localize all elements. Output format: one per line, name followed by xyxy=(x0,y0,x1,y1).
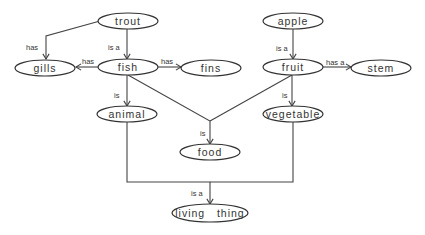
edge-trout-to-fish: is a xyxy=(108,29,130,59)
edge-label: is a xyxy=(191,189,204,198)
edge-label: has xyxy=(82,57,94,66)
edge-label: is xyxy=(200,129,206,138)
node-trout: trout xyxy=(98,13,158,29)
node-label: living thing xyxy=(175,207,244,219)
edge-fish-to-fins: has xyxy=(158,57,181,70)
node-label: trout xyxy=(115,15,141,27)
node-label: apple xyxy=(278,15,309,27)
edge-label: is xyxy=(114,91,120,100)
node-label: food xyxy=(198,146,222,158)
node-food: food xyxy=(180,144,240,160)
node-stem: stem xyxy=(351,60,411,76)
node-fins: fins xyxy=(181,60,241,76)
edge-fish-to-animal: is xyxy=(114,75,130,106)
edge-line xyxy=(46,21,100,59)
node-living-thing: living thing xyxy=(172,204,248,222)
node-vegetable: vegetable xyxy=(263,106,323,122)
node-label: fruit xyxy=(282,61,305,73)
node-label: animal xyxy=(109,108,146,120)
node-fruit: fruit xyxy=(263,59,323,75)
diagram-canvas: hasis ahashasisis ahas aisisis a troutgi… xyxy=(0,0,425,235)
edge-apple-to-fruit: is a xyxy=(276,29,296,59)
edge-fish-to-gills: has xyxy=(76,57,98,70)
edge-label: has xyxy=(26,43,38,52)
node-label: fins xyxy=(201,62,221,74)
node-label: fish xyxy=(118,61,138,73)
node-label: stem xyxy=(368,62,395,74)
edge-label: is a xyxy=(108,43,121,52)
node-animal: animal xyxy=(97,106,157,122)
edge-label: is a xyxy=(276,44,289,53)
nodes-layer: troutgillsfishfinsapplefruitstemanimalve… xyxy=(15,13,411,222)
node-label: vegetable xyxy=(266,108,321,120)
node-apple: apple xyxy=(263,13,323,29)
edge-label: is xyxy=(282,91,288,100)
node-fish: fish xyxy=(98,59,158,75)
edge-label: has xyxy=(161,57,173,66)
edge-fruit-to-stem: has a xyxy=(323,58,351,70)
node-label: gills xyxy=(33,62,56,74)
semantic-network-diagram: hasis ahashasisis ahas aisisis a troutgi… xyxy=(0,0,425,235)
node-gills: gills xyxy=(15,60,75,76)
edge-label: has a xyxy=(326,58,345,67)
edge-trout-to-gills: has xyxy=(26,21,100,59)
